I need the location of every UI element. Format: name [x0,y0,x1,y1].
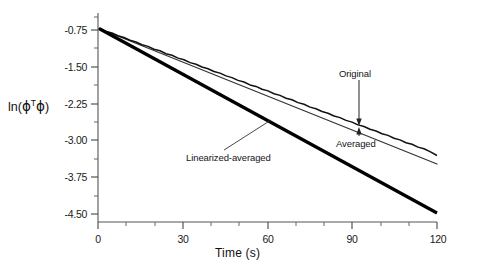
xtick-label-2: 60 [253,233,283,245]
ytick-label-3: -3.00 [42,134,87,146]
ytick-label-5: -4.50 [42,208,87,220]
annotation-original: Original [339,68,371,79]
y-axis-minor-ticks [94,17,98,196]
annotation-linearized-averaged: Linearized-averaged [186,152,271,163]
ytick-label-4: -3.75 [42,171,87,183]
series-averaged-line [99,29,437,165]
ytick-label-1: -1.50 [42,61,87,73]
x-axis-major-ticks [98,222,437,229]
linearized-averaged-leader [224,120,271,150]
y-axis-title: ln(ϕTϕ) [8,98,49,114]
xtick-label-1: 30 [168,233,198,245]
x-axis-title: Time (s) [215,246,260,260]
xtick-label-0: 0 [83,233,113,245]
ytick-label-0: -0.75 [42,24,87,36]
axis-lines [98,13,437,222]
original-arrow [356,80,361,126]
series-original-line [99,29,437,156]
xtick-label-4: 120 [423,233,453,245]
xtick-label-3: 90 [337,233,367,245]
annotation-averaged: Averaged [336,138,376,149]
figure-container: -0.75 -1.50 -2.25 -3.00 -3.75 -4.50 0 30… [0,0,482,274]
series-linearized-averaged-line [99,29,437,214]
